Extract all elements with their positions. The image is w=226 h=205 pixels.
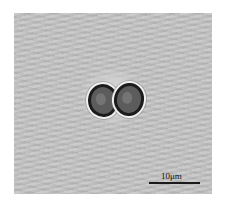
micrograph-image	[14, 13, 212, 194]
scale-bar-label: 10μm	[161, 172, 182, 181]
cell-right-interior	[122, 91, 133, 104]
scale-bar	[149, 182, 200, 184]
cell-left-interior	[95, 93, 107, 106]
